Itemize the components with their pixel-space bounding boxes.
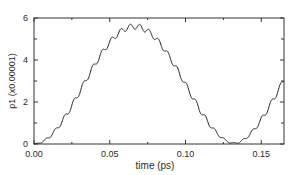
x-tick-label: 0.05 (101, 149, 119, 159)
y-tick-label: 6 (23, 13, 28, 23)
y-tick-label: 0 (23, 139, 28, 149)
axes-frame (34, 18, 284, 144)
chart: 0.000.050.100.15 0246 time (ps) p1 (x0.0… (0, 0, 296, 175)
x-tick-label: 0.00 (25, 149, 43, 159)
x-axis-ticks: 0.000.050.100.15 (25, 18, 270, 159)
y-axis-ticks: 0246 (23, 13, 284, 149)
p1-line (34, 24, 284, 144)
x-axis-label: time (ps) (136, 160, 175, 171)
y-tick-label: 2 (23, 97, 28, 107)
y-tick-label: 4 (23, 55, 28, 65)
plot-border (34, 18, 284, 144)
x-tick-label: 0.15 (253, 149, 271, 159)
y-axis-label: p1 (x0.00001) (7, 53, 17, 109)
x-tick-label: 0.10 (177, 149, 195, 159)
